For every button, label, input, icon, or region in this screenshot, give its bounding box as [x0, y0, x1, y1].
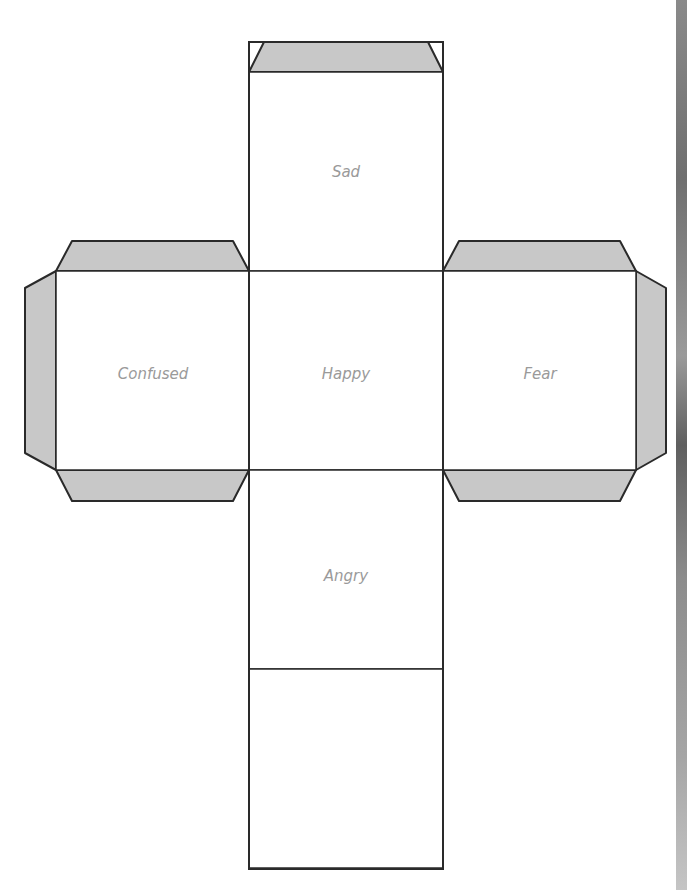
flap-right-side [636, 271, 666, 470]
label-happy: Happy [249, 364, 443, 384]
page-edge-texture [676, 0, 687, 890]
label-sad: Sad [249, 162, 443, 182]
flap-left-top [56, 241, 249, 271]
flap-right-bottom [443, 470, 636, 501]
flap-right-top [443, 241, 636, 271]
flap-top [249, 42, 443, 72]
cube-net [0, 0, 687, 890]
face-back [249, 669, 443, 868]
label-fear: Fear [443, 364, 637, 384]
label-angry: Angry [249, 566, 443, 586]
label-confused: Confused [56, 364, 250, 384]
flap-left-bottom [56, 470, 249, 501]
flap-left-side [25, 271, 56, 470]
